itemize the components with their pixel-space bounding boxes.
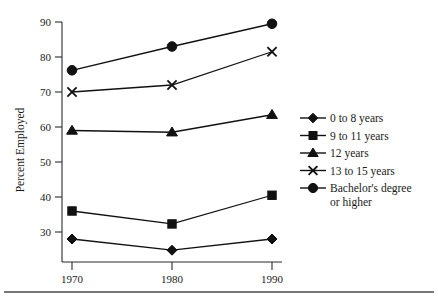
- legend-label: 12 years: [330, 147, 369, 160]
- data-point: [67, 66, 77, 76]
- circle-marker-icon: [308, 183, 317, 192]
- series-3: [67, 110, 278, 136]
- chart-figure: Percent Employed 90 80 70 60 50 40 30: [0, 0, 438, 301]
- y-tick-label: 40: [40, 191, 52, 203]
- y-tick-label: 80: [40, 51, 52, 63]
- data-point: [267, 47, 276, 56]
- data-point: [267, 234, 277, 244]
- series-5: [67, 19, 277, 75]
- data-point: [68, 207, 76, 215]
- data-point: [167, 42, 177, 52]
- y-axis-ticks: [55, 22, 62, 232]
- legend-item[interactable]: Bachelor's degreeor higher: [300, 182, 412, 209]
- line-chart: Percent Employed 90 80 70 60 50 40 30: [0, 0, 438, 301]
- legend-label-line2: or higher: [330, 196, 372, 209]
- y-tick-label: 90: [40, 16, 52, 28]
- y-tick-label: 60: [40, 121, 52, 133]
- x-tick-label: 1990: [261, 273, 284, 285]
- square-marker-icon: [309, 132, 317, 140]
- y-tick-label: 70: [40, 86, 52, 98]
- series-4: [67, 47, 276, 96]
- legend-item[interactable]: 12 years: [300, 147, 369, 160]
- legend-item[interactable]: 9 to 11 years: [300, 130, 389, 143]
- data-point: [168, 220, 176, 228]
- data-point: [167, 245, 177, 255]
- chart-legend: 0 to 8 years9 to 11 years12 years13 to 1…: [300, 112, 412, 209]
- data-point: [267, 110, 278, 119]
- y-axis-title: Percent Employed: [14, 107, 27, 192]
- x-axis-tick-labels: 1970 1980 1990: [61, 273, 284, 285]
- series-2: [68, 191, 276, 228]
- data-point: [268, 191, 276, 199]
- data-point: [67, 125, 78, 134]
- y-tick-label: 30: [40, 226, 52, 238]
- triangle-marker-icon: [308, 148, 318, 157]
- y-axis-tick-labels: 90 80 70 60 50 40 30: [40, 16, 52, 238]
- series-1: [67, 234, 277, 255]
- x-axis-ticks: [72, 262, 272, 270]
- plot-series-layer: [67, 19, 278, 255]
- legend-label: Bachelor's degree: [330, 182, 412, 195]
- x-tick-label: 1980: [161, 273, 184, 285]
- legend-item[interactable]: 13 to 15 years: [300, 165, 395, 178]
- legend-label: 13 to 15 years: [330, 165, 395, 178]
- data-point: [67, 234, 77, 244]
- data-point: [267, 19, 277, 29]
- x-tick-label: 1970: [61, 273, 84, 285]
- legend-label: 0 to 8 years: [330, 112, 384, 125]
- legend-label: 9 to 11 years: [330, 130, 389, 143]
- y-tick-label: 50: [40, 156, 52, 168]
- legend-item[interactable]: 0 to 8 years: [300, 112, 384, 125]
- diamond-marker-icon: [308, 113, 318, 123]
